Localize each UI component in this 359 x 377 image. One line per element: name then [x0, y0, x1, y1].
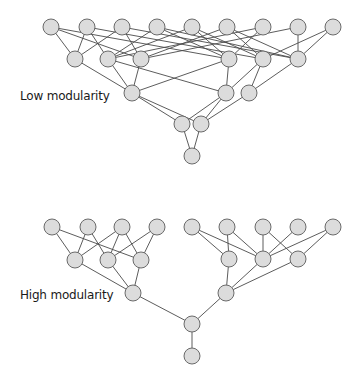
node-m3 [241, 85, 257, 101]
node-t7 [255, 19, 271, 35]
node-t6 [219, 19, 235, 35]
node-b3 [133, 252, 149, 268]
edge [132, 93, 182, 124]
node-b1 [67, 252, 83, 268]
node-r2 [219, 219, 235, 235]
node-s1 [67, 51, 83, 67]
edges-layer [51, 27, 333, 356]
node-a3 [114, 219, 130, 235]
low-modularity-label: Low modularity [20, 89, 110, 103]
high-modularity-label: High modularity [20, 288, 113, 302]
node-r1 [184, 219, 200, 235]
node-s6 [290, 51, 306, 67]
network-diagram [0, 0, 359, 377]
node-t1 [43, 19, 59, 35]
node-t2 [79, 19, 95, 35]
node-c1 [125, 285, 141, 301]
node-q3 [290, 251, 306, 267]
node-t9 [325, 19, 341, 35]
node-l1 [174, 116, 190, 132]
node-t4 [149, 19, 165, 35]
node-s3 [133, 51, 149, 67]
node-q2 [255, 251, 271, 267]
node-l2 [193, 116, 209, 132]
node-m1 [124, 85, 140, 101]
node-b [184, 148, 200, 164]
node-m2 [218, 85, 234, 101]
nodes-layer [43, 19, 341, 364]
node-a2 [80, 219, 96, 235]
node-b2 [100, 252, 116, 268]
node-c2 [218, 285, 234, 301]
node-q1 [221, 251, 237, 267]
node-a4 [149, 219, 165, 235]
node-s4 [221, 51, 237, 67]
node-r4 [290, 219, 306, 235]
edge [132, 93, 201, 124]
node-t3 [114, 19, 130, 35]
node-s2 [100, 51, 116, 67]
node-root [184, 348, 200, 364]
node-a1 [44, 219, 60, 235]
node-hub [184, 316, 200, 332]
edge [133, 293, 192, 324]
node-t8 [290, 19, 306, 35]
node-r3 [255, 219, 271, 235]
node-s5 [255, 51, 271, 67]
node-r5 [325, 219, 341, 235]
node-t5 [184, 19, 200, 35]
